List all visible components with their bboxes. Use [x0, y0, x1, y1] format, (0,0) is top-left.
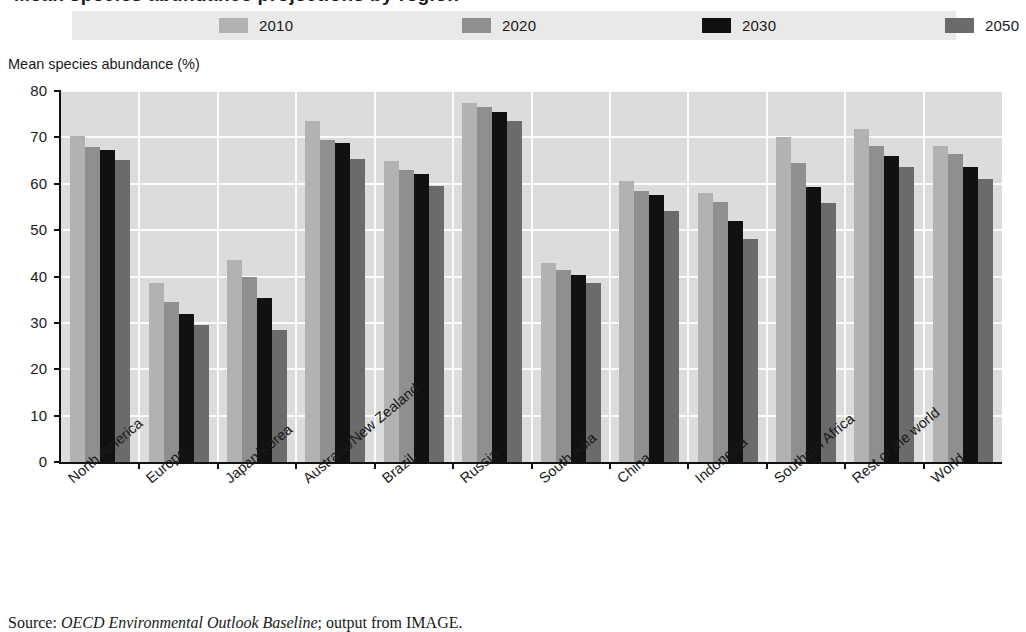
- bar-group-southern-africa: [776, 91, 836, 462]
- bar-southern-africa-2030: [806, 187, 821, 462]
- chart-title: Mean species abundance projections by re…: [14, 0, 459, 6]
- x-tick-mark-4: [374, 462, 376, 469]
- bar-russia-2030: [492, 112, 507, 462]
- gridline-x-11: [923, 91, 925, 462]
- bar-rest-of-the-world-2020: [869, 146, 884, 462]
- gridline-x-4: [374, 91, 376, 462]
- bar-group-rest-of-the-world: [854, 91, 914, 462]
- gridline-x-3: [295, 91, 297, 462]
- bar-europe-2030: [179, 314, 194, 462]
- source-italic: OECD Environmental Outlook Baseline: [61, 614, 318, 631]
- bar-indonesia-2010: [698, 193, 713, 462]
- gridline-x-6: [531, 91, 533, 462]
- legend-label-2020: 2020: [502, 17, 536, 34]
- x-tick-mark-1: [138, 462, 140, 469]
- bar-europe-2010: [149, 283, 164, 462]
- bar-australia-new-zealand-2020: [320, 140, 335, 462]
- bar-china-2010: [619, 181, 634, 462]
- y-tick-mark-40: [54, 276, 61, 278]
- bar-europe-2050: [194, 325, 209, 462]
- bar-australia-new-zealand-2030: [335, 143, 350, 462]
- y-tick-label-80: 80: [3, 82, 47, 99]
- source-note: Source: OECD Environmental Outlook Basel…: [8, 614, 462, 632]
- bar-group-china: [619, 91, 679, 462]
- y-tick-label-50: 50: [3, 221, 47, 238]
- bar-japan-korea-2020: [242, 277, 257, 463]
- bar-group-japan-korea: [227, 91, 287, 462]
- source-prefix: Source:: [8, 614, 57, 631]
- bar-southern-africa-2020: [791, 163, 806, 462]
- legend-item-2030: 2030: [702, 11, 776, 40]
- gridline-x-2: [217, 91, 219, 462]
- legend-swatch-icon-2050: [945, 18, 974, 33]
- legend-label-2010: 2010: [259, 17, 293, 34]
- legend-item-2010: 2010: [219, 11, 293, 40]
- bar-brazil-2020: [399, 170, 414, 462]
- legend-swatch-icon-2010: [219, 18, 248, 33]
- bar-southern-africa-2010: [776, 137, 791, 462]
- y-tick-label-20: 20: [3, 360, 47, 377]
- legend-swatch-icon-2030: [702, 18, 731, 33]
- bar-australia-new-zealand-2010: [305, 121, 320, 462]
- bar-group-europe: [149, 91, 209, 462]
- bar-russia-2020: [477, 107, 492, 462]
- bar-north-america-2020: [85, 147, 100, 462]
- x-tick-mark-7: [609, 462, 611, 469]
- legend-label-2050: 2050: [985, 17, 1019, 34]
- y-tick-mark-80: [54, 90, 61, 92]
- y-tick-mark-20: [54, 368, 61, 370]
- y-tick-mark-70: [54, 136, 61, 138]
- bar-group-indonesia: [698, 91, 758, 462]
- bar-indonesia-2030: [728, 221, 743, 462]
- bar-group-russia: [462, 91, 522, 462]
- x-tick-mark-8: [687, 462, 689, 469]
- x-tick-mark-5: [452, 462, 454, 469]
- bar-indonesia-2020: [713, 202, 728, 462]
- bar-indonesia-2050: [743, 239, 758, 462]
- bar-south-asia-2010: [541, 263, 556, 462]
- legend-item-2020: 2020: [462, 11, 536, 40]
- bar-japan-korea-2010: [227, 260, 242, 462]
- y-tick-mark-30: [54, 322, 61, 324]
- bar-world-2050: [978, 179, 993, 462]
- gridline-x-7: [609, 91, 611, 462]
- bar-rest-of-the-world-2050: [899, 167, 914, 462]
- bar-china-2020: [634, 191, 649, 462]
- plot-area: 01020304050607080: [59, 91, 1002, 464]
- bar-world-2020: [948, 154, 963, 462]
- x-tick-mark-11: [923, 462, 925, 469]
- bar-north-america-2010: [70, 136, 85, 462]
- x-tick-mark-9: [766, 462, 768, 469]
- y-axis-title: Mean species abundance (%): [8, 56, 200, 72]
- y-tick-label-60: 60: [3, 175, 47, 192]
- bar-group-australia-new-zealand: [305, 91, 365, 462]
- gridline-x-9: [766, 91, 768, 462]
- gridline-x-1: [138, 91, 140, 462]
- x-tick-mark-10: [844, 462, 846, 469]
- y-tick-mark-10: [54, 415, 61, 417]
- x-tick-mark-2: [217, 462, 219, 469]
- bar-russia-2050: [507, 121, 522, 462]
- bar-europe-2020: [164, 302, 179, 462]
- bar-south-asia-2020: [556, 270, 571, 462]
- bar-australia-new-zealand-2050: [350, 159, 365, 462]
- source-note-strip: Source: OECD Environmental Outlook Basel…: [0, 614, 1026, 632]
- bar-china-2030: [649, 195, 664, 462]
- legend-label-2030: 2030: [742, 17, 776, 34]
- y-tick-label-30: 30: [3, 314, 47, 331]
- bar-group-north-america: [70, 91, 130, 462]
- bar-group-south-asia: [541, 91, 601, 462]
- bar-north-america-2050: [115, 160, 130, 462]
- bar-rest-of-the-world-2030: [884, 156, 899, 462]
- chart-legend: 2010202020302050: [72, 11, 956, 40]
- y-tick-label-0: 0: [3, 453, 47, 470]
- source-suffix: ; output from IMAGE.: [318, 614, 463, 631]
- bar-china-2050: [664, 211, 679, 462]
- x-tick-mark-6: [531, 462, 533, 469]
- y-tick-mark-50: [54, 229, 61, 231]
- gridline-x-5: [452, 91, 454, 462]
- bar-rest-of-the-world-2010: [854, 129, 869, 462]
- y-tick-label-10: 10: [3, 407, 47, 424]
- bar-world-2030: [963, 167, 978, 462]
- gridline-x-10: [844, 91, 846, 462]
